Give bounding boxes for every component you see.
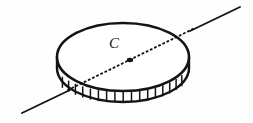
figure-container: C xyxy=(0,0,253,123)
center-point-dot xyxy=(127,58,133,62)
center-label-c: C xyxy=(109,35,120,51)
disk-axis-diagram: C xyxy=(0,0,253,123)
disk-top-face xyxy=(57,23,189,91)
